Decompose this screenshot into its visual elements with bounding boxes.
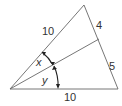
arrowhead-y-top: [52, 66, 57, 70]
label-bottom-side: 10: [64, 91, 76, 103]
label-angle-y: y: [41, 74, 49, 86]
arrowhead-y-bottom: [56, 84, 60, 89]
label-right-lower: 5: [109, 60, 115, 72]
cevian-line: [10, 39, 99, 89]
triangle-diagram: 10 4 5 10 x y: [0, 0, 122, 106]
label-angle-x: x: [35, 56, 42, 68]
triangle: [10, 5, 118, 89]
label-right-upper: 4: [96, 19, 102, 31]
label-left-side: 10: [42, 25, 54, 37]
